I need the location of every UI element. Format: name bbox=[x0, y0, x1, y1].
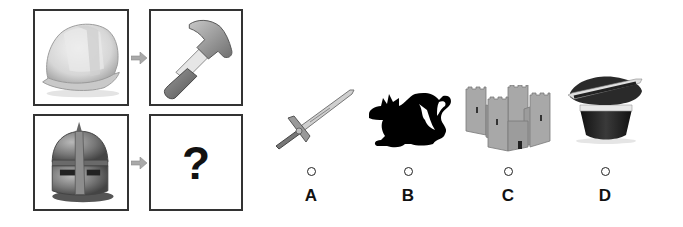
arrow-right-icon bbox=[131, 157, 147, 169]
question-source-box bbox=[33, 114, 129, 211]
option-c-label: C bbox=[493, 186, 523, 206]
hard-hat-icon bbox=[35, 11, 127, 104]
option-d-label: D bbox=[590, 186, 620, 206]
question-target-box: ? bbox=[149, 114, 243, 211]
sword-icon[interactable] bbox=[270, 86, 356, 152]
premise-source-box bbox=[33, 9, 129, 106]
castle-icon[interactable] bbox=[464, 85, 552, 153]
option-d-radio[interactable] bbox=[601, 167, 610, 176]
option-b-label: B bbox=[393, 186, 423, 206]
option-a-label: A bbox=[296, 186, 326, 206]
option-a-radio[interactable] bbox=[307, 167, 316, 176]
dragon-icon[interactable] bbox=[365, 84, 455, 150]
premise-target-box bbox=[149, 9, 243, 106]
question-mark: ? bbox=[151, 116, 241, 209]
option-c-radio[interactable] bbox=[504, 167, 513, 176]
arrow-right-icon bbox=[131, 52, 147, 64]
knight-helmet-icon bbox=[35, 116, 127, 209]
hammer-icon bbox=[151, 11, 241, 104]
option-b-radio[interactable] bbox=[404, 167, 413, 176]
top-hat-icon[interactable] bbox=[566, 73, 646, 145]
